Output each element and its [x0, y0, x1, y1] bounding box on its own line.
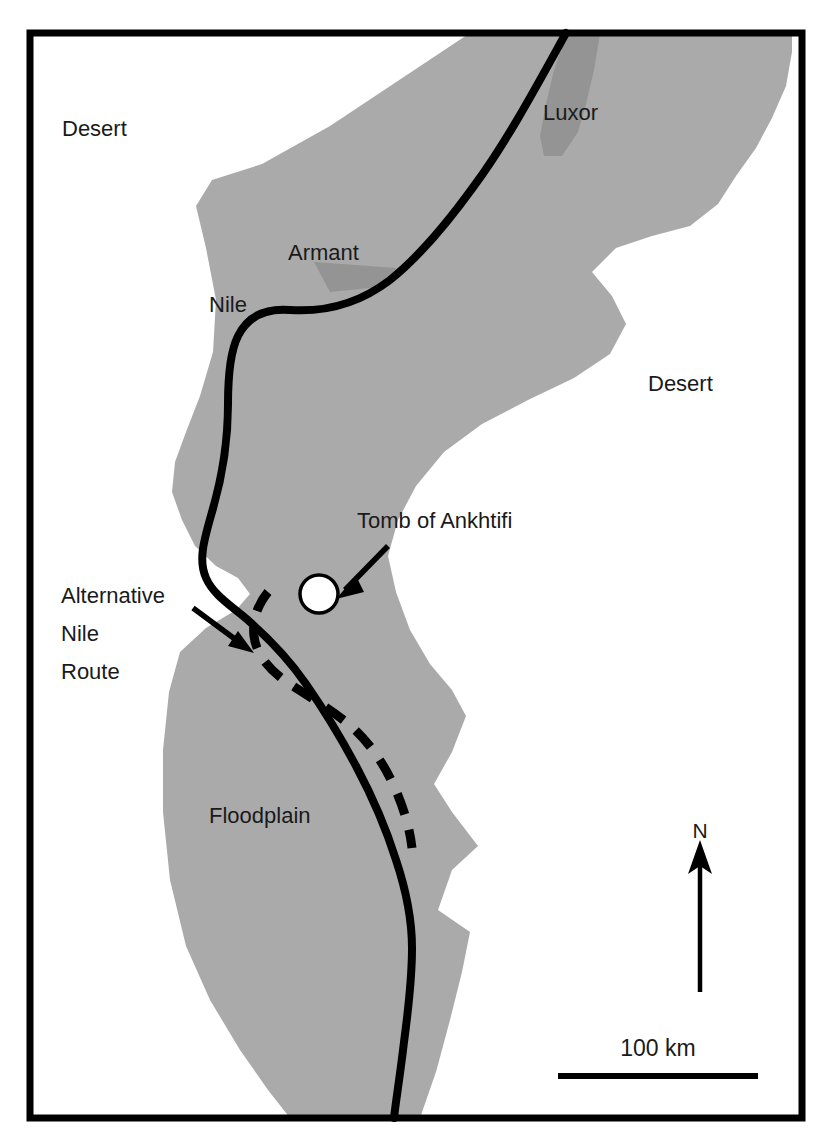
map-canvas: Desert Desert Luxor Armant Nile Floodpla… — [0, 0, 826, 1147]
label-scale-bar: 100 km — [620, 1035, 695, 1061]
label-floodplain: Floodplain — [209, 803, 311, 828]
label-tomb-of-ankhtifi: Tomb of Ankhtifi — [357, 508, 512, 533]
label-north-arrow: N — [692, 819, 707, 842]
tomb-marker-icon — [300, 575, 338, 613]
label-desert-east: Desert — [648, 371, 713, 396]
label-desert-northwest: Desert — [62, 116, 127, 141]
label-alternative-route-line1: Alternative — [61, 583, 165, 608]
label-luxor: Luxor — [543, 100, 598, 125]
map-figure: Desert Desert Luxor Armant Nile Floodpla… — [0, 0, 826, 1147]
label-armant: Armant — [288, 240, 359, 265]
label-alternative-route-line3: Route — [61, 659, 120, 684]
label-nile: Nile — [209, 292, 247, 317]
label-alternative-route-line2: Nile — [61, 621, 99, 646]
